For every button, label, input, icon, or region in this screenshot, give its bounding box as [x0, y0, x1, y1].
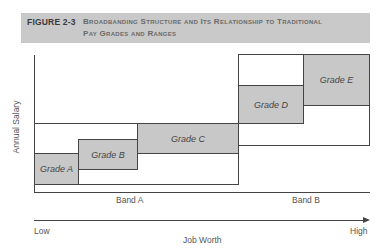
job-worth-axis	[34, 220, 364, 221]
x-axis-label: Job Worth	[183, 235, 222, 245]
y-axis-label: Annual Salary	[11, 97, 21, 157]
arrow-right-icon	[363, 217, 370, 223]
grade-c-label: Grade C	[171, 134, 205, 144]
figure-caption: FIGURE 2-3 Broadbanding Structure and It…	[21, 13, 370, 43]
grade-a-box: Grade A	[34, 153, 79, 185]
figure-title-line-2: Pay Grades and Ranges	[83, 29, 176, 38]
grade-e-box: Grade E	[303, 54, 370, 106]
band-b-label: Band B	[292, 195, 320, 205]
grade-d-label: Grade D	[254, 100, 288, 110]
figure-number: FIGURE 2-3	[27, 17, 76, 27]
high-label: High	[350, 226, 367, 236]
grade-c-box: Grade C	[137, 123, 239, 154]
band-axis	[34, 192, 370, 193]
grade-b-box: Grade B	[78, 139, 138, 170]
grade-d-box: Grade D	[238, 85, 304, 124]
grade-e-label: Grade E	[320, 75, 354, 85]
figure-title-line-1: Broadbanding Structure and Its Relations…	[83, 17, 322, 26]
band-a-label: Band A	[116, 195, 143, 205]
grade-a-label: Grade A	[40, 164, 73, 174]
low-label: Low	[34, 226, 50, 236]
grade-b-label: Grade B	[91, 150, 125, 160]
